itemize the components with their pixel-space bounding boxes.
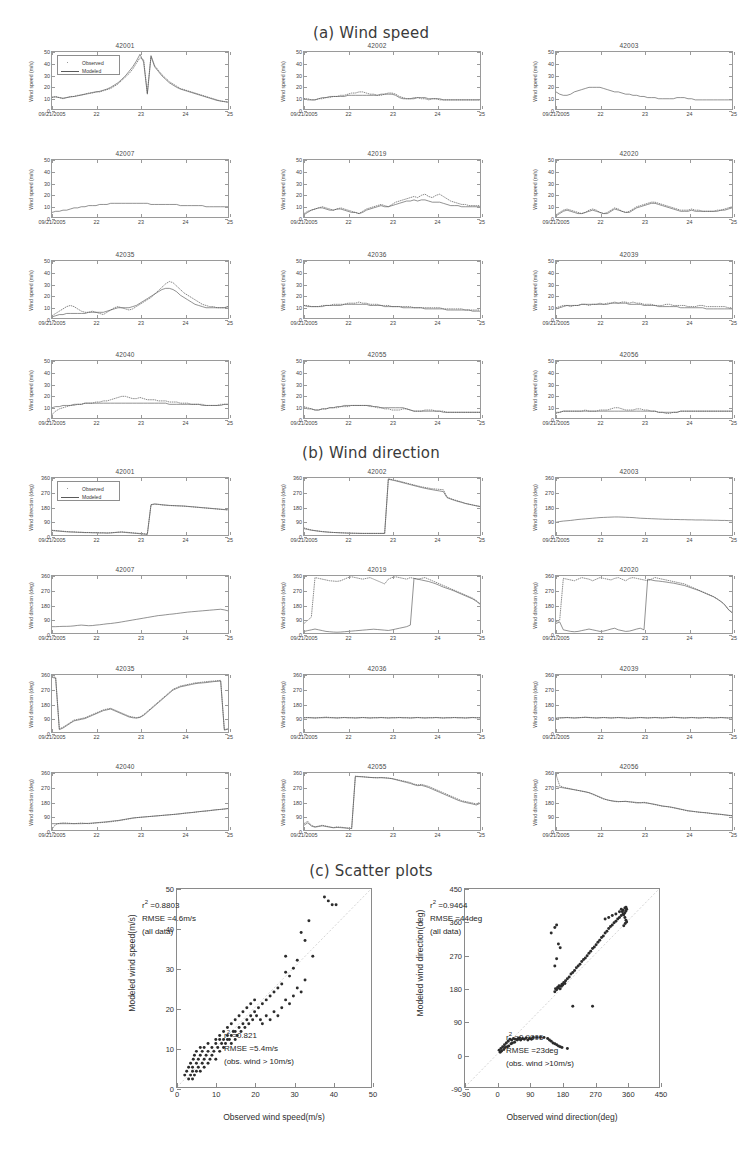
panel-ytick-label: 270 bbox=[293, 588, 302, 594]
panel-xtick-mark bbox=[690, 261, 691, 264]
series-line-observed bbox=[52, 809, 228, 830]
panel-legend: ObservedModeled bbox=[57, 481, 120, 501]
panel-xtick-mark bbox=[230, 729, 231, 732]
section-b-title: (b) Wind direction bbox=[0, 444, 742, 462]
scatter-xtick-mark bbox=[295, 1083, 296, 1087]
panel-xtick-label: 23 bbox=[642, 832, 648, 838]
panel-ytick-mark bbox=[304, 373, 307, 374]
panel-ytick-mark bbox=[556, 273, 559, 274]
panel-xtick-mark bbox=[141, 361, 142, 364]
panel-xtick-mark bbox=[304, 52, 305, 55]
panel-axes: Wind speed (m/s)0102030405009/21/2005222… bbox=[303, 51, 481, 110]
panel-xtick-label: 22 bbox=[346, 219, 352, 225]
panel-xtick-mark bbox=[393, 361, 394, 364]
panel-xtick-label: 24 bbox=[435, 320, 441, 326]
panel-ytick-label: 10 bbox=[548, 405, 554, 411]
scatter-point bbox=[218, 1038, 221, 1041]
scatter-point bbox=[607, 916, 610, 919]
panel-xtick-label: 24 bbox=[435, 420, 441, 426]
panel-xtick-label: 22 bbox=[598, 635, 604, 641]
panel-axes: Wind direction (deg)09018027036009/21/20… bbox=[51, 674, 229, 733]
panel-xtick-mark bbox=[438, 52, 439, 55]
scatter-xtick-label: 0 bbox=[175, 1090, 179, 1099]
panel-ytick-mark bbox=[304, 385, 307, 386]
scatter-point bbox=[234, 1018, 237, 1021]
panel-station-title: 42039 bbox=[518, 251, 740, 258]
panel-xtick-mark bbox=[393, 827, 394, 830]
panel-station-title: 42056 bbox=[518, 763, 740, 770]
panel-xtick-label: 23 bbox=[390, 537, 396, 543]
panel-xtick-mark bbox=[438, 478, 439, 481]
panel-xtick-label: 22 bbox=[346, 537, 352, 543]
panel-ytick-mark bbox=[225, 195, 228, 196]
panel-ylabel: Wind speed (m/s) bbox=[28, 160, 38, 219]
series-line-modeled bbox=[304, 405, 480, 412]
scatter-ytick-label: 10 bbox=[166, 1045, 174, 1054]
panel-xtick-label: 22 bbox=[598, 111, 604, 117]
panel-xtick-label: 22 bbox=[94, 420, 100, 426]
series-line-observed bbox=[304, 194, 480, 213]
scatter-point bbox=[563, 982, 566, 985]
timeseries-panel-42020: 42020Wind direction (deg)09018027036009/… bbox=[518, 566, 740, 658]
panel-ytick-mark bbox=[477, 493, 480, 494]
panel-ylabel: Wind direction (deg) bbox=[532, 576, 542, 635]
panel-ytick-mark bbox=[477, 160, 480, 161]
panel-xtick-mark bbox=[52, 576, 53, 579]
panel-xtick-mark bbox=[482, 214, 483, 217]
panel-xtick-mark bbox=[438, 315, 439, 318]
scatter-point bbox=[191, 1066, 194, 1069]
timeseries-panel-42035: 42035Wind direction (deg)09018027036009/… bbox=[14, 665, 236, 757]
scatter-point bbox=[571, 1005, 574, 1008]
panel-xtick-label: 09/21/2005 bbox=[291, 832, 318, 838]
panel-ytick-mark bbox=[52, 408, 55, 409]
panel-ytick-label: 10 bbox=[296, 405, 302, 411]
panel-ytick-label: 40 bbox=[44, 270, 50, 276]
panel-xtick-mark bbox=[482, 478, 483, 481]
scatter-point bbox=[214, 1042, 217, 1045]
panel-xtick-mark bbox=[734, 576, 735, 579]
panel-xtick-mark bbox=[52, 478, 53, 481]
scatter-point bbox=[265, 1014, 268, 1017]
panel-xtick-mark bbox=[393, 415, 394, 418]
scatter-xtick-mark bbox=[628, 1083, 629, 1087]
series-line-modeled bbox=[52, 808, 228, 823]
scatter-point bbox=[253, 998, 256, 1001]
panel-xtick-label: 23 bbox=[138, 219, 144, 225]
scatter-point bbox=[559, 987, 562, 990]
panel-ytick-mark bbox=[729, 773, 732, 774]
scatter-point bbox=[605, 930, 608, 933]
panel-xtick-mark bbox=[52, 630, 53, 633]
panel-xtick-label: 24 bbox=[435, 111, 441, 117]
panel-ytick-label: 90 bbox=[548, 716, 554, 722]
panel-ytick-label: 30 bbox=[548, 382, 554, 388]
panel-ytick-mark bbox=[52, 522, 55, 523]
panel-xtick-label: 09/21/2005 bbox=[543, 734, 570, 740]
panel-ytick-label: 20 bbox=[548, 393, 554, 399]
scatter-point bbox=[187, 1066, 190, 1069]
panel-ytick-mark bbox=[556, 64, 559, 65]
scatter-point bbox=[622, 924, 625, 927]
legend-label-modeled: Modeled bbox=[82, 494, 101, 500]
panel-xtick-mark bbox=[690, 52, 691, 55]
scatter-xtick-label: 50 bbox=[369, 1090, 377, 1099]
panel-ytick-mark bbox=[52, 207, 55, 208]
panel-ytick-mark bbox=[477, 52, 480, 53]
figure-canvas: (a) Wind speed (b) Wind direction (c) Sc… bbox=[0, 0, 742, 1163]
panel-xtick-label: 24 bbox=[435, 635, 441, 641]
panel-ytick-label: 50 bbox=[44, 49, 50, 55]
panel-xtick-label: 23 bbox=[642, 111, 648, 117]
scatter-point bbox=[559, 946, 562, 949]
panel-ytick-mark bbox=[477, 773, 480, 774]
panel-xtick-mark bbox=[690, 675, 691, 678]
panel-station-title: 42039 bbox=[518, 665, 740, 672]
scatter-direction-ylabel: Modeled wind direction(deg) bbox=[415, 863, 425, 1063]
scatter-ytick-mark bbox=[177, 969, 181, 970]
timeseries-panel-42056: 42056Wind direction (deg)09018027036009/… bbox=[518, 763, 740, 855]
scatter-xtick-label: 10 bbox=[212, 1090, 220, 1099]
panel-xtick-mark bbox=[52, 415, 53, 418]
panel-ytick-label: 20 bbox=[296, 393, 302, 399]
panel-xtick-mark bbox=[482, 532, 483, 535]
panel-xtick-label: 22 bbox=[346, 111, 352, 117]
panel-xtick-label: 25 bbox=[479, 734, 485, 740]
panel-xtick-label: 09/21/2005 bbox=[39, 111, 66, 117]
